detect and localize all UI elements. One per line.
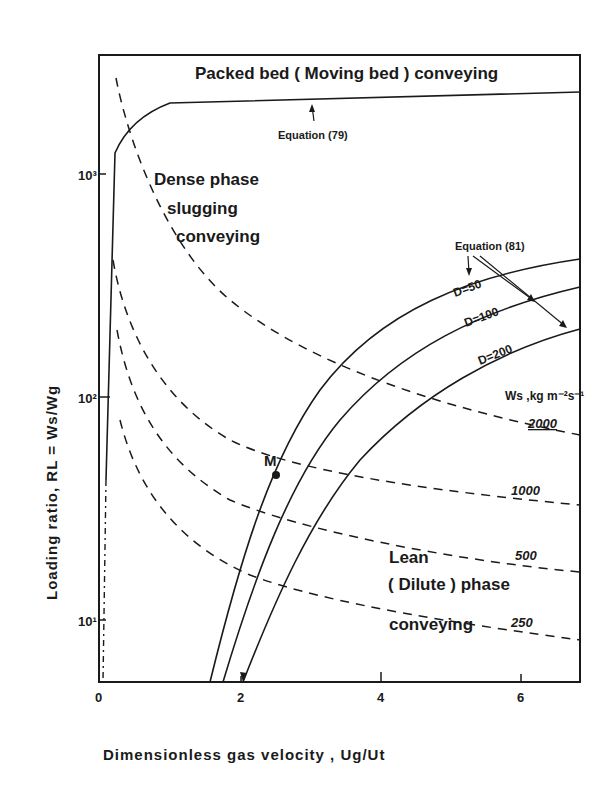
y-axis-title: Loading ratio, RL = Ws/Wg: [43, 385, 60, 600]
point-m-label: M: [264, 452, 277, 469]
point-m-marker: [272, 471, 280, 479]
arrow-head-icon: [466, 268, 472, 276]
equation-79-curve: [106, 92, 580, 480]
arrow-head-icon: [309, 104, 315, 112]
y-tick-label-10: 10¹: [78, 614, 97, 629]
x-tick-label-4: 4: [377, 690, 385, 705]
lean-phase-label-2: ( Dilute ) phase: [388, 575, 510, 594]
packed-bed-label: Packed bed ( Moving bed ) conveying: [195, 64, 498, 83]
d-200-label: D=200: [476, 341, 515, 367]
equation-79-label: Equation (79): [278, 129, 348, 141]
dense-phase-label-3: conveying: [176, 227, 260, 246]
y-tick-label-1000: 10³: [78, 168, 97, 183]
y-tick-label-100: 10²: [78, 391, 97, 406]
dense-phase-label-1: Dense phase: [154, 170, 259, 189]
ws-2000-curve: [116, 78, 580, 435]
x-axis-title: Dimensionless gas velocity , Ug/Ut: [103, 746, 385, 763]
chart-figure: M Packed bed ( Moving bed ) conveying Eq…: [0, 0, 611, 788]
dense-phase-label-2: slugging: [167, 199, 238, 218]
lean-phase-label-1: Lean: [389, 548, 429, 567]
equation-81-arrow-d100: [473, 256, 533, 300]
ws-250-label: 250: [510, 615, 533, 630]
d-50-label: D=50: [451, 277, 483, 300]
ws-1000-label: 1000: [511, 483, 541, 498]
equation-79-lower-extension: [103, 480, 106, 682]
x-tick-label-2: 2: [237, 690, 244, 705]
ws-500-label: 500: [515, 548, 537, 563]
lean-phase-label-3: conveying: [389, 615, 473, 634]
arrow-head-icon: [559, 320, 567, 328]
ws-unit-label: Ws ,kg m⁻²s⁻¹: [505, 389, 584, 403]
ws-250-curve: [120, 420, 580, 640]
x-tick-label-0: 0: [95, 690, 102, 705]
ws-2000-label: 2000: [527, 416, 558, 431]
d-100-label: D=100: [462, 304, 501, 329]
ws-1000-curve: [113, 260, 580, 505]
equation-81-label: Equation (81): [455, 240, 525, 252]
x-tick-label-6: 6: [517, 690, 524, 705]
